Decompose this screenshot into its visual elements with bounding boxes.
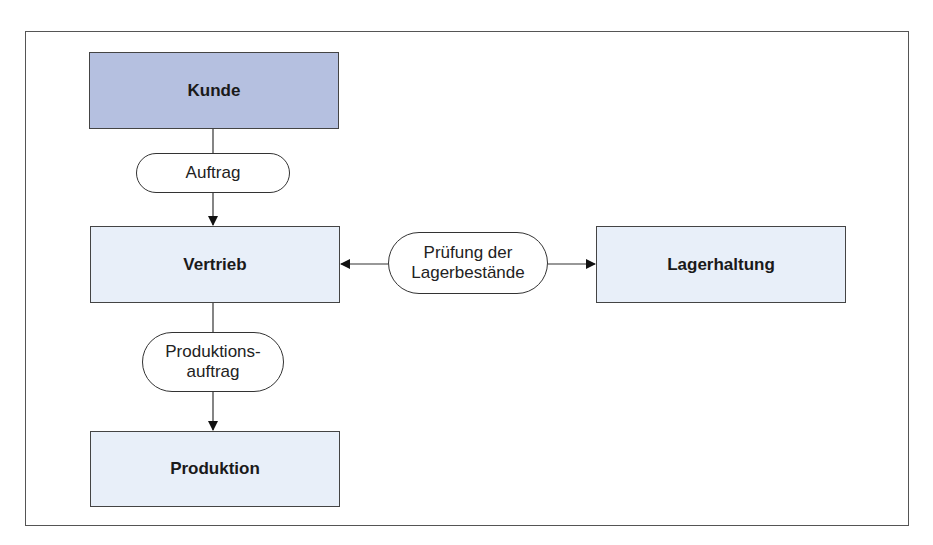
- node-produktion: Produktion: [90, 431, 340, 507]
- flow-produktionsauftrag-line2: auftrag: [187, 362, 240, 382]
- flow-pruefung-lagerbestaende: Prüfung der Lagerbestände: [388, 232, 548, 294]
- flow-produktionsauftrag-line1: Produktions-: [165, 342, 260, 362]
- flow-produktionsauftrag: Produktions- auftrag: [142, 332, 284, 392]
- node-kunde: Kunde: [89, 52, 339, 129]
- node-lagerhaltung-label: Lagerhaltung: [667, 255, 775, 275]
- flow-auftrag-label: Auftrag: [186, 163, 241, 183]
- node-produktion-label: Produktion: [170, 459, 260, 479]
- flow-pruefung-line2: Lagerbestände: [411, 263, 524, 283]
- flow-pruefung-line1: Prüfung der: [424, 243, 513, 263]
- node-vertrieb-label: Vertrieb: [183, 255, 246, 275]
- node-kunde-label: Kunde: [188, 81, 241, 101]
- flow-auftrag: Auftrag: [136, 153, 290, 193]
- node-vertrieb: Vertrieb: [90, 226, 340, 303]
- node-lagerhaltung: Lagerhaltung: [596, 226, 846, 303]
